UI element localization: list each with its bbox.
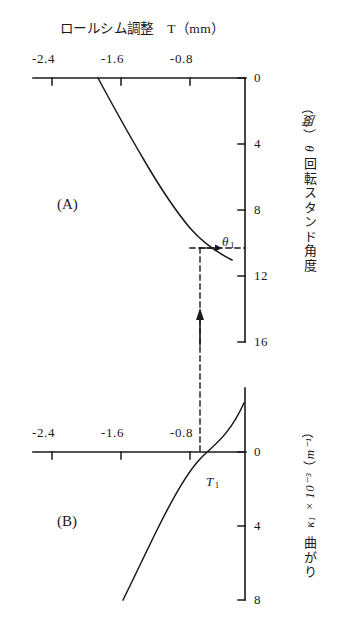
panel-b-ytick-label-1: 0	[254, 445, 261, 458]
panel-a-ytick-label-2: 4	[254, 137, 261, 150]
panel-b-xtick-label-2: -1.6	[101, 426, 124, 439]
panel-b-t1-annotation: T1	[193, 462, 219, 503]
panel-b-xtick-label-3: -0.8	[170, 426, 193, 439]
panel-b-y-axis-unit-text: ×10⁻³（m⁻¹）	[302, 424, 317, 514]
panel-b-y-axis-text: 曲がり	[300, 536, 319, 580]
kappa-subscript: 1	[306, 516, 316, 521]
panel-a-xtick-label-1: -2.4	[32, 52, 55, 65]
panel-a-y-axis-title: （度） θ 回転スタンド角度	[300, 100, 319, 273]
panel-a-y-axis-symbol: θ	[302, 145, 318, 152]
panel-a-x-ticks	[52, 78, 190, 85]
panel-a-y-ticks	[238, 78, 245, 342]
panel-a-ytick-label-4: 12	[254, 269, 268, 282]
t-subscript: 1	[213, 480, 219, 490]
kappa-symbol: κ	[302, 521, 317, 528]
panel-a-xtick-label-2: -1.6	[101, 52, 124, 65]
panel-b-y-ticks	[238, 452, 245, 600]
panel-a-label: (A)	[57, 197, 78, 212]
panel-b-y-axis-unit: ×10⁻³（m⁻¹）	[300, 424, 319, 514]
panel-a-ytick-label-3: 8	[254, 203, 261, 216]
panel-a-y-axis-text: 回転スタンド角度	[300, 157, 319, 273]
panel-a-ytick-label-5: 16	[254, 335, 268, 348]
theta-subscript: 1	[228, 240, 234, 250]
panel-b-y-axis-title: ×10⁻³（m⁻¹） κ1 曲がり	[300, 424, 319, 579]
panel-b-ytick-label-3: 8	[254, 593, 261, 606]
panel-a-xtick-label-3: -0.8	[170, 52, 193, 65]
top-axis-title: ロールシム調整 T（mm）	[60, 22, 224, 36]
panel-b-x-ticks	[52, 452, 190, 459]
panel-b-ytick-label-2: 4	[254, 519, 261, 532]
panel-b-label: (B)	[57, 514, 77, 529]
figure-root: ロールシム調整 T（mm） -2.4 -1.6 -0.8 0 4 8 12 16…	[0, 0, 358, 631]
panel-a-theta-annotation: θ1	[209, 222, 234, 263]
panel-a-y-axis-unit: （度）	[300, 100, 319, 141]
panel-a-ytick-label-1: 0	[254, 71, 261, 84]
panel-b-xtick-label-1: -2.4	[32, 426, 55, 439]
connector-arrowhead	[196, 308, 204, 320]
panel-b-y-axis-symbol: κ1	[302, 516, 318, 528]
